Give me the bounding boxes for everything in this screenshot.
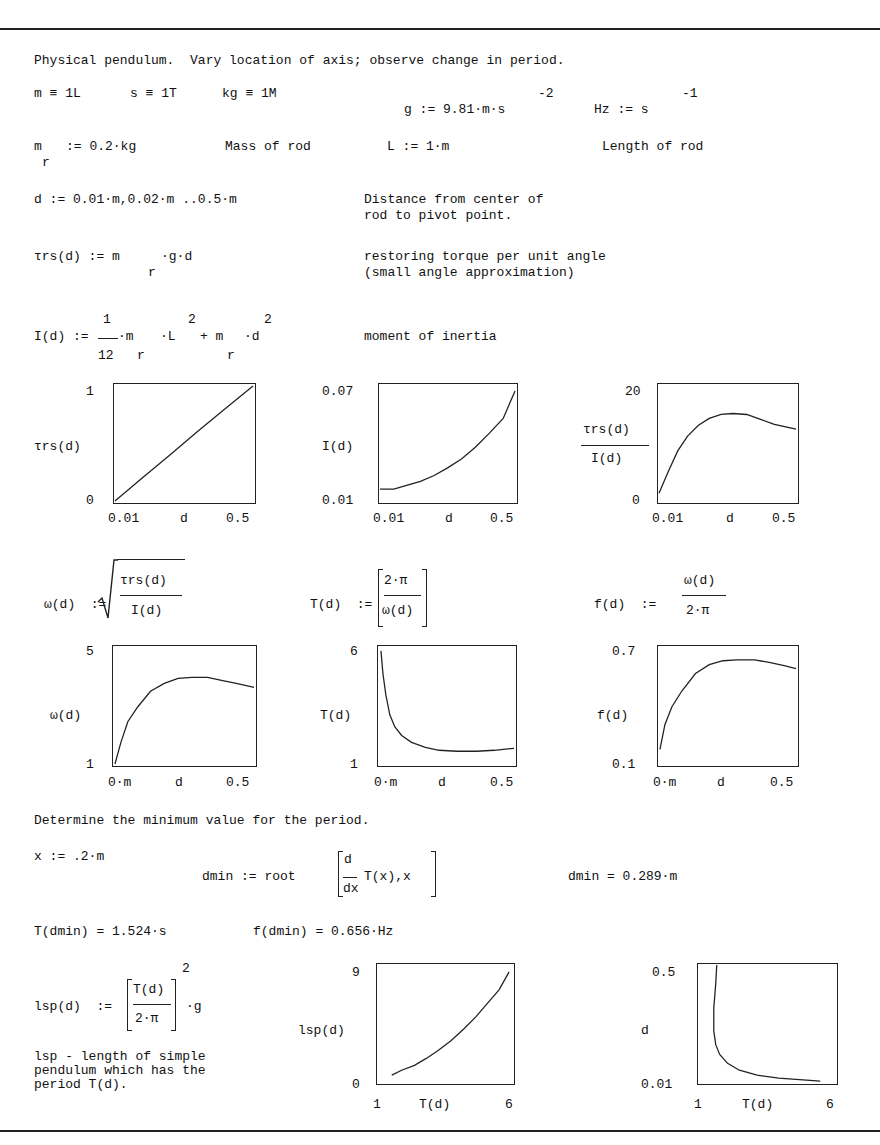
inertia-sub1: r	[137, 349, 145, 363]
ratio-plot-xmax: 0.5	[772, 512, 795, 526]
d-vs-period-plot	[697, 963, 838, 1085]
frequency-plot	[657, 645, 799, 767]
d-plot-ymin: 0.01	[641, 1078, 672, 1092]
torque-plot-ymax: 1	[86, 385, 94, 399]
omega-plot-xlabel: d	[175, 776, 183, 790]
period-plot-xmin: 0·m	[374, 776, 397, 790]
inertia-plot-xmax: 0.5	[490, 512, 513, 526]
unit-def-s: s ≡ 1T	[130, 87, 177, 101]
omega-plot-ymin: 1	[86, 758, 94, 772]
omega-plot-xmax: 0.5	[226, 776, 249, 790]
d-range-definition: d := 0.01·m,0.02·m ..0.5·m	[34, 193, 237, 207]
frequency-lhs: f(d) :=	[594, 598, 656, 612]
frequency-plot-xlabel: d	[717, 776, 725, 790]
omega-plot-ymax: 5	[86, 645, 94, 659]
torque-plot-xmin: 0.01	[108, 512, 139, 526]
frequency-denominator: 2·π	[686, 604, 709, 618]
ratio-plot-xmin: 0.01	[652, 512, 683, 526]
omega-frac-bar	[120, 595, 182, 596]
deriv-frac-bar	[343, 877, 357, 878]
period-plot-ylabel: T(d)	[320, 709, 351, 723]
d-plot-xlabel: T(d)	[742, 1098, 773, 1112]
ratio-plot-ylabel-num: τrs(d)	[583, 423, 630, 437]
ratio-plot-xlabel: d	[726, 512, 734, 526]
frequency-plot-ymin: 0.1	[612, 758, 635, 772]
mr-subscript: r	[42, 156, 50, 170]
lsp-right-bracket	[171, 979, 176, 1031]
deriv-numerator: d	[344, 853, 352, 867]
unit-def-m: m ≡ 1L	[34, 87, 81, 101]
top-rule	[0, 28, 880, 30]
period-frac-bar	[384, 595, 421, 596]
lsp-note-3: period T(d).	[34, 1078, 128, 1092]
d-plot-xmax: 6	[826, 1098, 834, 1112]
d-description-1: Distance from center of	[364, 193, 543, 207]
period-plot-ymax: 6	[350, 645, 358, 659]
deriv-rhs: T(x),x	[364, 870, 411, 884]
d-plot-ymax: 0.5	[652, 966, 675, 980]
minimum-heading: Determine the minimum value for the peri…	[34, 814, 369, 828]
dmin-lhs: dmin := root	[202, 870, 296, 884]
inertia-exp1: 2	[188, 313, 196, 327]
inertia-plot-ymin: 0.01	[322, 494, 353, 508]
lsp-plot-xmin: 1	[373, 1098, 381, 1112]
torque-rhs: ·g·d	[161, 250, 192, 264]
lsp-vs-period-plot	[376, 963, 515, 1085]
torque-plot-xlabel: d	[180, 512, 188, 526]
g-definition: g := 9.81·m·s	[404, 103, 505, 117]
d-plot-ylabel: d	[641, 1024, 649, 1038]
lsp-left-bracket	[127, 979, 132, 1031]
lsp-frac-bar	[133, 1004, 171, 1005]
period-right-bracket	[422, 569, 427, 627]
lsp-plot-ylabel: lsp(d)	[298, 1024, 345, 1038]
deriv-denominator: dx	[343, 882, 359, 896]
omega-denominator: I(d)	[131, 604, 162, 618]
omega-numerator: τrs(d)	[120, 574, 167, 588]
period-left-bracket	[378, 569, 383, 627]
inertia-frac-num: 1	[103, 313, 111, 327]
hz-exponent: -1	[682, 87, 698, 101]
inertia-plot-ylabel: I(d)	[322, 440, 353, 454]
inertia-plot	[378, 383, 518, 504]
ratio-plot	[657, 383, 799, 504]
period-plot	[377, 645, 517, 767]
lsp-plot-xlabel: T(d)	[419, 1098, 450, 1112]
torque-subscript: r	[148, 266, 156, 280]
lsp-note-2: pendulum which has the	[34, 1064, 206, 1078]
frequency-plot-xmax: 0.5	[770, 776, 793, 790]
torque-lhs: τrs(d) := m	[34, 250, 120, 264]
period-numerator: 2·π	[384, 574, 407, 588]
period-plot-ymin: 1	[350, 758, 358, 772]
lsp-denominator: 2·π	[135, 1012, 158, 1026]
inertia-sub2: r	[227, 349, 235, 363]
g-exponent: -2	[538, 87, 554, 101]
mr-value: := 0.2·kg	[66, 140, 136, 154]
omega-plot-ylabel: ω(d)	[50, 709, 81, 723]
worksheet-title: Physical pendulum. Vary location of axis…	[34, 54, 565, 68]
bottom-rule	[0, 1130, 880, 1132]
torque-plot-xmax: 0.5	[226, 512, 249, 526]
torque-description-1: restoring torque per unit angle	[364, 250, 606, 264]
d-description-2: rod to pivot point.	[364, 209, 512, 223]
period-denominator: ω(d)	[382, 604, 413, 618]
lsp-rhs: ·g	[186, 1000, 202, 1014]
inertia-plot-ymax: 0.07	[322, 385, 353, 399]
frequency-plot-ymax: 0.7	[612, 645, 635, 659]
mr-description: Mass of rod	[225, 140, 311, 154]
frequency-plot-ylabel: f(d)	[597, 709, 628, 723]
inertia-plot-xlabel: d	[445, 512, 453, 526]
inertia-term1: ·m	[118, 330, 134, 344]
period-plot-xlabel: d	[438, 776, 446, 790]
lsp-plot-xmax: 6	[505, 1098, 513, 1112]
period-lhs: T(d) :=	[310, 598, 372, 612]
mr-symbol: m	[34, 140, 42, 154]
dmin-result: dmin = 0.289·m	[568, 870, 677, 884]
f-dmin-result: f(dmin) = 0.656·Hz	[253, 925, 393, 939]
L-definition: L := 1·m	[387, 140, 449, 154]
lsp-lhs: lsp(d) :=	[34, 1000, 112, 1014]
torque-plot-ymin: 0	[86, 494, 94, 508]
omega-plot	[112, 645, 257, 767]
dmin-right-bracket	[431, 851, 436, 897]
inertia-term4: ·d	[244, 330, 260, 344]
lsp-plot-ymax: 9	[352, 966, 360, 980]
